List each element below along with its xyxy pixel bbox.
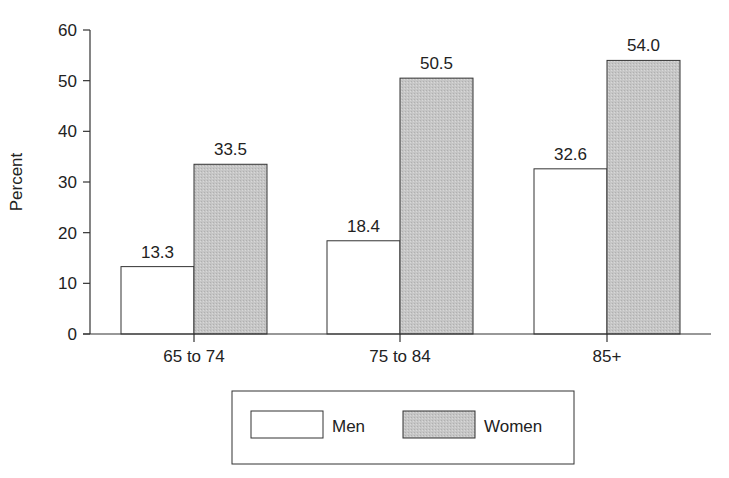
y-tick-label: 50 [58, 72, 77, 91]
bar-women [194, 164, 267, 334]
bar-value-label: 13.3 [141, 243, 174, 262]
y-axis-label: Percent [7, 152, 26, 211]
x-tick-label: 65 to 74 [163, 347, 224, 366]
y-tick-label: 40 [58, 122, 77, 141]
bar-value-label: 54.0 [627, 36, 660, 55]
x-axis: 65 to 7475 to 8485+ [83, 334, 711, 366]
y-tick-label: 20 [58, 224, 77, 243]
legend-swatch-women [403, 411, 475, 438]
bar-chart: Percent 0102030405060 13.333.518.450.532… [0, 0, 729, 478]
x-tick-label: 75 to 84 [369, 347, 430, 366]
x-tick-label: 85+ [593, 347, 622, 366]
legend-label-men: Men [332, 417, 365, 436]
legend-swatch-men [251, 411, 323, 438]
bar-women [607, 60, 680, 334]
bar-men [534, 169, 607, 334]
bar-value-label: 50.5 [420, 54, 453, 73]
bar-value-label: 33.5 [214, 140, 247, 159]
legend: Men Women [232, 391, 574, 464]
y-tick-label: 10 [58, 274, 77, 293]
y-tick-label: 0 [68, 325, 77, 344]
bar-women [400, 78, 473, 334]
legend-label-women: Women [484, 417, 542, 436]
bar-men [121, 267, 194, 334]
bars: 13.333.518.450.532.654.0 [121, 36, 680, 334]
bar-men [327, 241, 400, 334]
bar-value-label: 32.6 [554, 145, 587, 164]
y-tick-label: 30 [58, 173, 77, 192]
y-axis: 0102030405060 [58, 21, 90, 344]
bar-value-label: 18.4 [347, 217, 380, 236]
y-tick-label: 60 [58, 21, 77, 40]
